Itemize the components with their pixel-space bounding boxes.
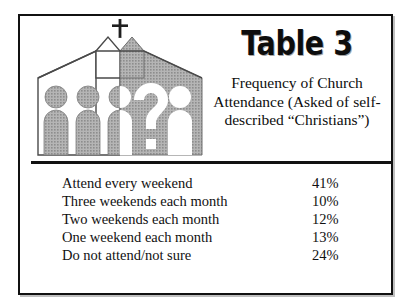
steeple-right <box>120 37 144 78</box>
person-figure <box>76 86 100 155</box>
row-value: 12% <box>312 210 339 228</box>
card-header: Table 3 Frequency of Church Attendance (… <box>20 16 391 161</box>
table-row: Attend every weekend 41% <box>20 174 391 192</box>
row-value: 24% <box>312 246 339 264</box>
table-row: Two weekends each month 12% <box>20 210 391 228</box>
title-block: Table 3 Frequency of Church Attendance (… <box>206 24 388 130</box>
church-with-question-mark-illustration <box>30 18 210 161</box>
table-row: Do not attend/not sure 24% <box>20 246 391 264</box>
header-divider <box>31 161 391 164</box>
row-value: 41% <box>312 174 339 192</box>
row-label: One weekend each month <box>62 228 212 246</box>
row-label: Attend every weekend <box>62 174 192 192</box>
person-figure <box>108 86 132 155</box>
row-value: 10% <box>312 192 339 210</box>
row-label: Do not attend/not sure <box>62 246 191 264</box>
table-row: One weekend each month 13% <box>20 228 391 246</box>
subtitle-line-2: Attendance (Asked of self- <box>206 93 388 112</box>
subtitle-line-3: described “Christians”) <box>206 111 388 130</box>
table-subtitle: Frequency of Church Attendance (Asked of… <box>206 74 388 130</box>
person-figure <box>44 86 68 155</box>
row-label: Three weekends each month <box>62 192 227 210</box>
subtitle-line-1: Frequency of Church <box>206 74 388 93</box>
data-table: Attend every weekend 41% Three weekends … <box>20 174 391 264</box>
steeple-left <box>96 37 120 78</box>
table-row: Three weekends each month 10% <box>20 192 391 210</box>
row-label: Two weekends each month <box>62 210 219 228</box>
cross-icon <box>112 19 128 38</box>
person-figure <box>168 86 192 155</box>
row-value: 13% <box>312 228 339 246</box>
page-title: Table 3 <box>221 24 374 62</box>
table-card: Table 3 Frequency of Church Attendance (… <box>18 14 393 295</box>
